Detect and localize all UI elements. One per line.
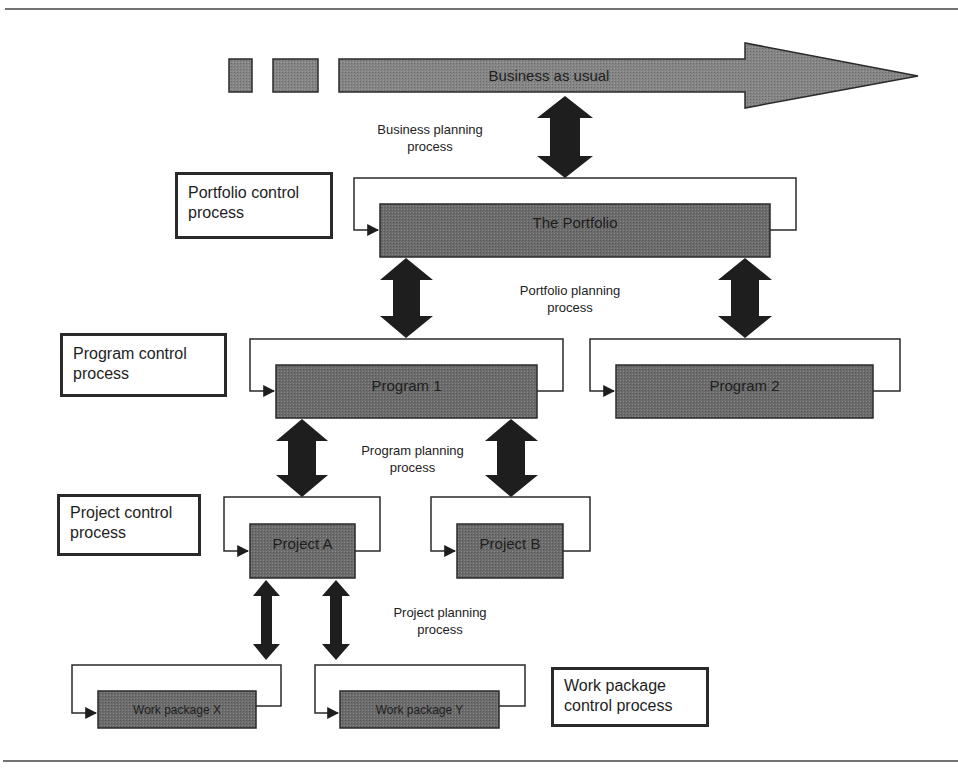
program-planning-line1: Program planning — [345, 442, 480, 459]
portfolio-planning-line2: process — [500, 299, 640, 316]
portfolio-planning-line1: Portfolio planning — [500, 282, 640, 299]
portfolio-control-line2: process — [188, 203, 320, 223]
program1-to-projectA-double-arrow — [276, 419, 328, 497]
business-planning-line2: process — [365, 138, 495, 155]
business-as-usual-label: Business as usual — [339, 59, 759, 92]
program1-node-label: Program 1 — [276, 365, 537, 405]
program-control-line1: Program control — [73, 344, 214, 364]
program-planning-label: Program planning process — [345, 442, 480, 476]
portfolio-to-program2-double-arrow — [718, 258, 772, 338]
projectA-node-label: Project A — [250, 524, 355, 562]
projectB-node-label: Project B — [457, 524, 563, 562]
project-control-line1: Project control — [70, 503, 188, 523]
portfolio-to-program1-double-arrow — [380, 258, 433, 338]
business-planning-double-arrow — [537, 96, 593, 178]
work-package-control-box: Work package control process — [551, 667, 709, 727]
projectA-to-wpY-double-arrow — [322, 580, 350, 660]
portfolio-planning-label: Portfolio planning process — [500, 282, 640, 316]
project-planning-line1: Project planning — [375, 604, 505, 621]
wpY-node-label: Work package Y — [340, 691, 499, 728]
portfolio-control-line1: Portfolio control — [188, 183, 320, 203]
program-control-line2: process — [73, 364, 214, 384]
program-control-box: Program control process — [60, 333, 227, 397]
portfolio-control-box: Portfolio control process — [175, 172, 333, 239]
program2-node-label: Program 2 — [616, 365, 873, 405]
project-control-box: Project control process — [57, 494, 201, 556]
project-planning-label: Project planning process — [375, 604, 505, 638]
project-control-line2: process — [70, 523, 188, 543]
project-planning-line2: process — [375, 621, 505, 638]
work-package-control-line1: Work package — [564, 676, 696, 696]
business-planning-label: Business planning process — [365, 121, 495, 155]
portfolio-node-label: The Portfolio — [380, 204, 770, 240]
program1-to-projectB-double-arrow — [485, 419, 538, 497]
projectA-to-wpX-double-arrow — [253, 580, 280, 660]
business-planning-line1: Business planning — [365, 121, 495, 138]
work-package-control-line2: control process — [564, 696, 696, 716]
program-planning-line2: process — [345, 459, 480, 476]
wpX-node-label: Work package X — [98, 691, 256, 728]
